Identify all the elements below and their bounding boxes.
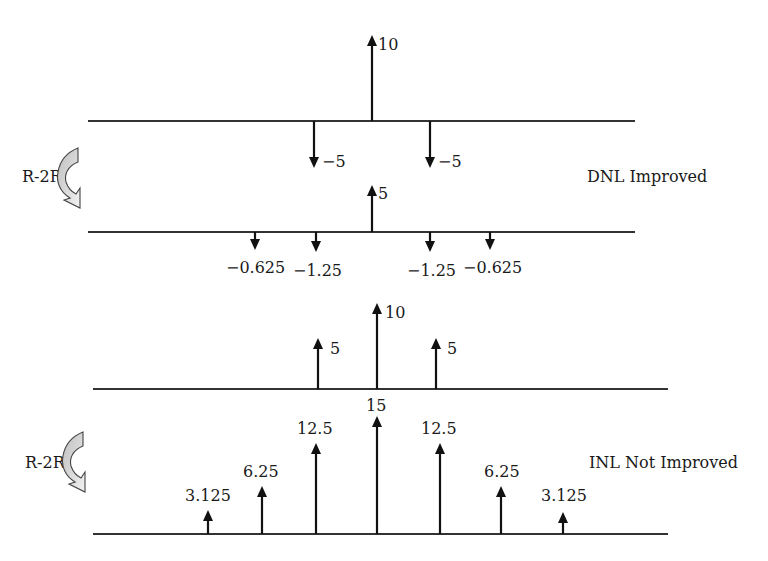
impulse: −1.25 [407, 232, 456, 280]
curved-arrow-icon [58, 148, 81, 208]
arrow-up-icon [431, 338, 441, 349]
dnl-panel: R-2R DNL Improved −510−5 −0.625−1.255−1.… [22, 35, 707, 280]
arrow-down-icon [485, 239, 495, 250]
impulse-value-label: 5 [378, 184, 388, 203]
impulse-value-label: −5 [438, 152, 462, 171]
impulse-value-label: 5 [330, 339, 340, 358]
impulse-value-label: 10 [378, 35, 398, 54]
inl-before-sequence: 5105 [93, 303, 668, 389]
impulse-value-label: −1.25 [293, 261, 342, 280]
arrow-up-icon [372, 303, 382, 314]
impulse: 5 [367, 184, 388, 232]
impulse: −0.625 [226, 232, 285, 277]
impulse: 3.125 [185, 486, 231, 534]
arrow-down-icon [250, 239, 260, 250]
impulse: 3.125 [541, 486, 587, 534]
impulse: −5 [425, 121, 462, 171]
inl-transform-label: R-2R [25, 453, 66, 472]
impulse: 12.5 [297, 419, 333, 534]
arrow-up-icon [435, 443, 445, 454]
arrow-up-icon [367, 35, 377, 46]
impulse: 6.25 [243, 462, 279, 534]
arrow-up-icon [372, 416, 382, 427]
arrow-up-icon [367, 185, 377, 196]
impulse-value-label: 12.5 [421, 419, 457, 438]
arrow-down-icon [425, 157, 435, 168]
impulse-value-label: −0.625 [226, 258, 285, 277]
inl-after-sequence: 3.1256.2512.51512.56.253.125 [93, 396, 668, 534]
impulse: −1.25 [293, 232, 342, 280]
impulse-value-label: 3.125 [185, 486, 231, 505]
impulse: −5 [309, 121, 346, 171]
impulse-value-label: −1.25 [407, 261, 456, 280]
arrow-down-icon [425, 241, 435, 252]
arrow-up-icon [313, 338, 323, 349]
arrow-up-icon [496, 486, 506, 497]
impulse-value-label: −5 [322, 152, 346, 171]
dnl-caption: DNL Improved [587, 167, 707, 186]
impulse: −0.625 [463, 232, 522, 277]
inl-panel: R-2R INL Not Improved 5105 3.1256.2512.5… [25, 303, 738, 534]
impulse-value-label: −0.625 [463, 258, 522, 277]
arrow-down-icon [311, 241, 321, 252]
arrow-up-icon [311, 443, 321, 454]
impulse: 10 [372, 303, 405, 389]
impulse: 5 [431, 338, 457, 389]
arrow-up-icon [257, 486, 267, 497]
impulse-value-label: 3.125 [541, 486, 587, 505]
impulse-value-label: 6.25 [484, 462, 520, 481]
arrow-down-icon [309, 157, 319, 168]
impulse: 6.25 [484, 462, 520, 534]
impulse: 12.5 [421, 419, 457, 534]
dnl-transform-label: R-2R [22, 167, 63, 186]
impulse: 15 [366, 396, 386, 534]
inl-caption: INL Not Improved [589, 453, 738, 472]
r2r-dnl-inl-diagram: R-2R DNL Improved −510−5 −0.625−1.255−1.… [0, 0, 768, 561]
curved-arrow-icon [63, 432, 86, 492]
arrow-up-icon [203, 510, 213, 521]
arrow-up-icon [558, 512, 568, 523]
impulse: 5 [313, 338, 340, 389]
impulse-value-label: 6.25 [243, 462, 279, 481]
impulse-value-label: 5 [447, 339, 457, 358]
dnl-after-sequence: −0.625−1.255−1.25−0.625 [88, 184, 635, 280]
dnl-before-sequence: −510−5 [88, 35, 635, 171]
impulse-value-label: 12.5 [297, 419, 333, 438]
impulse-value-label: 15 [366, 396, 386, 415]
impulse-value-label: 10 [385, 303, 405, 322]
impulse: 10 [367, 35, 398, 121]
